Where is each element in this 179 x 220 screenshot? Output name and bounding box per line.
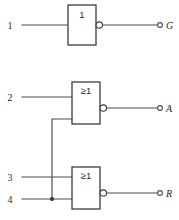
gate-or-3-output-bubble — [100, 190, 106, 196]
output-g-terminal — [158, 23, 163, 28]
gate-buffer-1-output-bubble — [96, 22, 102, 28]
output-r-terminal — [158, 191, 163, 196]
gate-buffer-1-group: 1 G 1 — [8, 5, 174, 45]
input-3-label: 3 — [8, 172, 13, 183]
gate-or-2-symbol: ≥1 — [81, 85, 92, 96]
feedback-net-group — [50, 119, 72, 201]
output-a-terminal — [158, 106, 163, 111]
gate-or-2-output-bubble — [100, 105, 106, 111]
wire-feedback-riser-to-gate-or-2 — [52, 119, 72, 199]
input-4-label: 4 — [8, 194, 13, 205]
output-a-label: A — [165, 103, 173, 114]
output-g-label: G — [166, 20, 173, 31]
input-1-label: 1 — [8, 20, 13, 31]
gate-buffer-1-symbol: 1 — [79, 9, 84, 20]
gate-or-3-group: ≥1 R 3 4 — [8, 167, 173, 209]
gate-or-3-symbol: ≥1 — [81, 170, 92, 181]
logic-circuit-diagram: 1 G 1 ≥1 A 2 ≥1 — [0, 0, 179, 220]
gate-or-2-group: ≥1 A 2 — [8, 82, 174, 124]
input-2-label: 2 — [8, 92, 13, 103]
circuit-schematic-canvas: 1 G 1 ≥1 A 2 ≥1 — [0, 0, 179, 220]
output-r-label: R — [165, 188, 172, 199]
